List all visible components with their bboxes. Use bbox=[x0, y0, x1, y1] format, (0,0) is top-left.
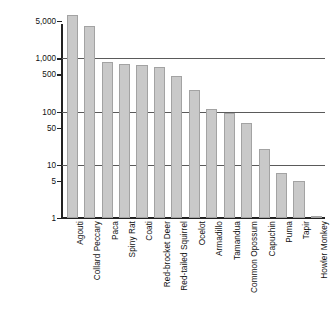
bar bbox=[311, 216, 322, 218]
bar bbox=[241, 123, 252, 218]
y-tick-mark bbox=[57, 58, 62, 59]
y-axis-line bbox=[61, 24, 63, 219]
y-tick-mark bbox=[57, 181, 62, 182]
bar bbox=[119, 64, 130, 218]
x-axis-labels: AgoutiCollard PeccaryPacaSpiny RatCoatiR… bbox=[61, 221, 325, 319]
x-axis-label: Tamandua bbox=[233, 221, 242, 260]
y-tick-label: 500 bbox=[42, 70, 56, 79]
y-tick-label: 50 bbox=[47, 123, 56, 132]
x-axis-label: Capuchin bbox=[268, 221, 277, 256]
y-tick-label: 5,000 bbox=[36, 17, 57, 26]
x-axis-label: Armadillo bbox=[215, 221, 224, 256]
y-tick-label: 100 bbox=[42, 107, 56, 116]
y-tick-label: 5 bbox=[51, 176, 56, 185]
x-axis-label: Tapir bbox=[302, 221, 311, 239]
x-axis-label: Common Opossum bbox=[250, 221, 259, 293]
bar bbox=[293, 181, 304, 218]
y-tick-mark bbox=[57, 165, 62, 166]
x-axis-label: Howler Monkey bbox=[320, 221, 329, 279]
bar bbox=[206, 109, 217, 218]
y-tick-mark bbox=[57, 218, 62, 219]
bar bbox=[189, 90, 200, 218]
y-tick-label: 1,000 bbox=[36, 54, 57, 63]
x-axis-label: Collard Peccary bbox=[93, 221, 102, 280]
bar bbox=[67, 15, 78, 218]
y-tick-mark bbox=[57, 74, 62, 75]
bar bbox=[224, 113, 235, 218]
bar bbox=[171, 76, 182, 218]
y-tick-mark bbox=[57, 128, 62, 129]
bar bbox=[154, 67, 165, 218]
bar bbox=[84, 26, 95, 218]
x-axis-label: Spiny Rat bbox=[128, 221, 137, 257]
plot-area: 1510501005001,0005,000 bbox=[61, 12, 325, 219]
x-axis-label: Paca bbox=[111, 221, 120, 240]
y-tick-label: 1 bbox=[51, 214, 56, 223]
y-tick-label: 10 bbox=[47, 160, 56, 169]
x-axis-label: Ocelot bbox=[198, 221, 207, 245]
y-tick-mark bbox=[57, 112, 62, 113]
bar bbox=[276, 173, 287, 218]
x-axis-label: Agouti bbox=[76, 221, 85, 245]
x-axis-label: Puma bbox=[285, 221, 294, 243]
bar bbox=[259, 149, 270, 218]
x-axis-label: Red-tailed Squirrel bbox=[180, 221, 189, 291]
gridline bbox=[61, 58, 325, 59]
bar bbox=[102, 62, 113, 218]
bar-chart: Number of mammals 1510501005001,0005,000… bbox=[0, 0, 333, 321]
x-axis-label: Coati bbox=[145, 221, 154, 241]
y-tick-mark bbox=[57, 21, 62, 22]
x-axis-label: Red-brocket Deer bbox=[163, 221, 172, 287]
bar bbox=[136, 65, 147, 218]
